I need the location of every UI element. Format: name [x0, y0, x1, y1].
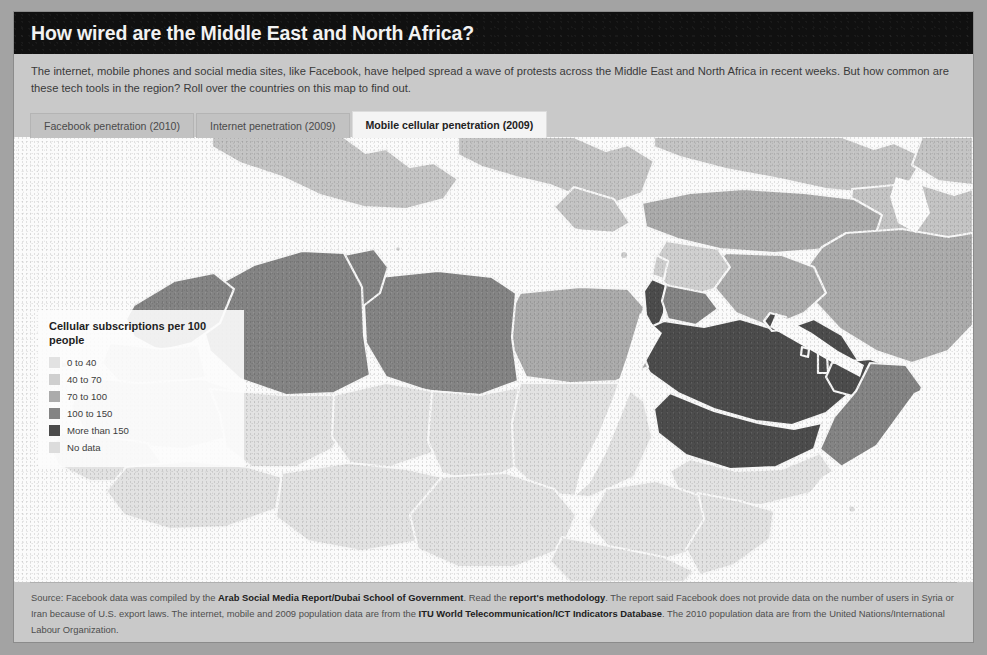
legend-label-40-to-70: 40 to 70 [67, 374, 102, 385]
tab-mobile-cellular-penetration[interactable]: Mobile cellular penetration (2009) [352, 111, 548, 138]
legend-item-no-data[interactable]: No data [49, 439, 234, 456]
legend-swatch-70-to-100 [49, 391, 60, 402]
footer-bar: Source: Facebook data was compiled by th… [14, 582, 973, 642]
legend-item-more-than-150[interactable]: More than 150 [49, 422, 234, 439]
island-cyprus [621, 252, 627, 258]
legend-item-100-to-150[interactable]: 100 to 150 [49, 405, 234, 422]
legend-swatch-0-to-40 [49, 357, 60, 368]
legend-item-70-to-100[interactable]: 70 to 100 [49, 388, 234, 405]
source-link-arab-social-media-report[interactable]: Arab Social Media Report/Dubai School of… [218, 592, 463, 603]
island-malta [396, 247, 400, 251]
legend-swatch-more-than-150 [49, 425, 60, 436]
legend-item-40-to-70[interactable]: 40 to 70 [49, 371, 234, 388]
screenshot-viewport: How wired are the Middle East and North … [0, 0, 987, 655]
source-note: Source: Facebook data was compiled by th… [31, 590, 961, 638]
legend-title: Cellular subscriptions per 100 people [49, 319, 234, 347]
tab-internet-penetration[interactable]: Internet penetration (2009) [196, 113, 349, 138]
legend-item-0-to-40[interactable]: 0 to 40 [49, 354, 234, 371]
header-bar: How wired are the Middle East and North … [14, 12, 973, 54]
region-libya[interactable] [364, 271, 518, 395]
legend-swatch-no-data [49, 442, 60, 453]
legend-label-no-data: No data [67, 442, 101, 453]
source-prefix: Source: Facebook data was compiled by th… [31, 592, 218, 603]
tab-strip: Facebook penetration (2010) Internet pen… [30, 111, 549, 138]
intro-paragraph: The internet, mobile phones and social m… [31, 63, 956, 97]
source-link-itu-database[interactable]: ITU World Telecommunication/ICT Indicato… [419, 608, 662, 619]
page-title: How wired are the Middle East and North … [31, 22, 474, 45]
legend-label-100-to-150: 100 to 150 [67, 408, 112, 419]
footer-divider [30, 582, 957, 583]
source-link-report-methodology[interactable]: report's methodology [509, 592, 605, 603]
island-socotra [849, 506, 854, 511]
legend-label-more-than-150: More than 150 [67, 425, 129, 436]
tab-facebook-penetration[interactable]: Facebook penetration (2010) [30, 113, 194, 138]
legend-label-0-to-40: 0 to 40 [67, 357, 96, 368]
legend-swatch-100-to-150 [49, 408, 60, 419]
legend-label-70-to-100: 70 to 100 [67, 391, 107, 402]
region-lebanon[interactable] [652, 255, 668, 279]
infographic-panel: How wired are the Middle East and North … [14, 12, 973, 642]
region-central-africa[interactable] [410, 473, 576, 567]
source-mid-1: . Read the [463, 592, 509, 603]
legend-swatch-40-to-70 [49, 374, 60, 385]
map-legend: Cellular subscriptions per 100 people 0 … [38, 310, 244, 467]
